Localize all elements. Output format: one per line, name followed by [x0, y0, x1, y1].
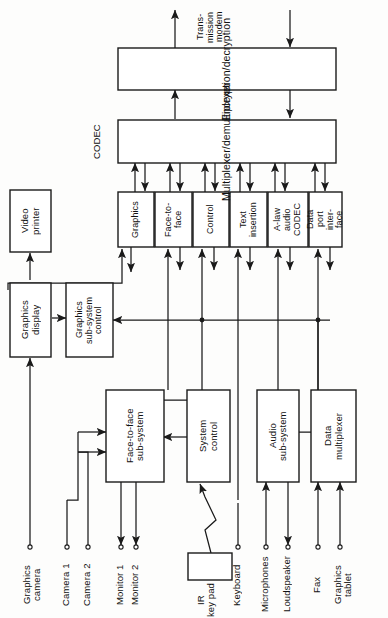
diagram-vector-layer — [0, 0, 388, 618]
diagram-canvas: Encryption/decryption Multiplexer/demult… — [0, 0, 388, 618]
